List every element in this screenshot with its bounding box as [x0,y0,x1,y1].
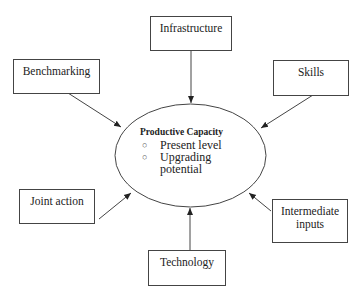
center-title: Productive Capacity [140,127,260,137]
node-skills: Skills [273,60,349,96]
node-label: Benchmarking [23,65,91,77]
node-joint-action: Joint action [19,189,95,224]
arrow-skills [261,95,313,128]
node-technology: Technology [148,250,226,286]
arrow-intermediate-inputs [249,193,271,211]
center-bullet-list: ○ Present level ○ Upgrading potential [140,139,260,175]
arrow-benchmarking [68,93,121,127]
node-label: Technology [160,256,214,268]
node-label-line-2: inputs [273,218,347,231]
bullet-text-line-2: potential [160,163,260,175]
node-label: Joint action [30,195,83,207]
node-infrastructure: Infrastructure [150,16,232,51]
node-label: Infrastructure [160,22,223,34]
hollow-circle-bullet-icon: ○ [142,151,147,163]
node-label-line-1: Intermediate [273,205,347,218]
node-intermediate-inputs: Intermediate inputs [272,199,348,243]
node-label: Skills [298,66,324,78]
node-benchmarking: Benchmarking [13,59,100,94]
arrow-joint-action [99,193,131,219]
productive-capacity-content: Productive Capacity ○ Present level ○ Up… [140,127,260,175]
bullet-upgrading-potential: ○ Upgrading potential [140,151,260,175]
hollow-circle-bullet-icon: ○ [142,139,147,151]
